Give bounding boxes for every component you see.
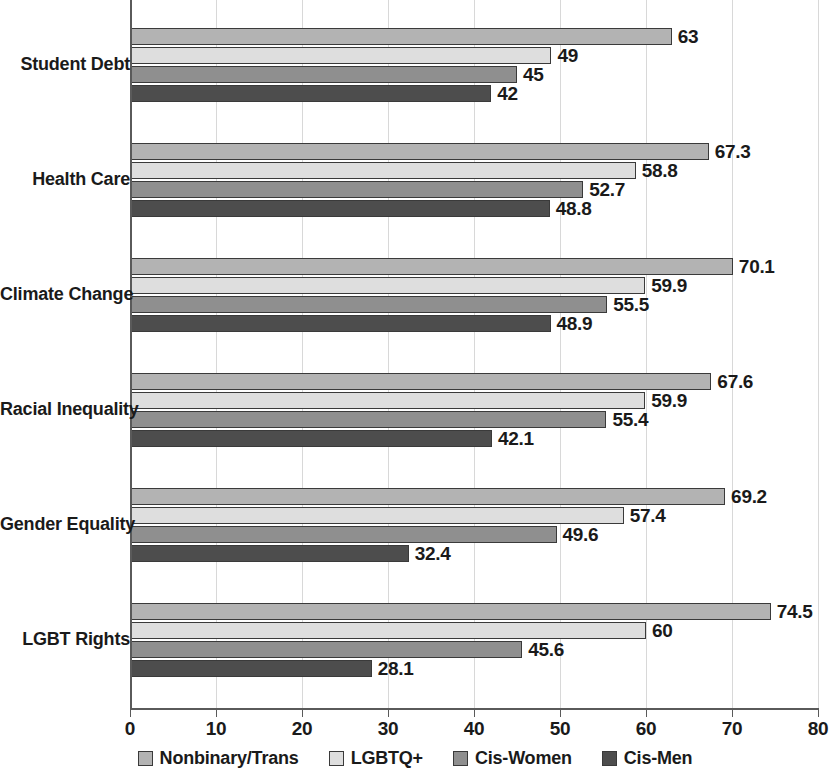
bar[interactable]	[130, 28, 672, 45]
bar-value-label: 28.1	[378, 657, 414, 679]
bar[interactable]	[130, 85, 491, 102]
bar-value-label: 70.1	[739, 255, 775, 277]
bar-value-label: 49	[557, 44, 578, 66]
bar-row: 42.1	[130, 430, 818, 447]
bar-row: 55.5	[130, 296, 818, 313]
bar-row: 42	[130, 85, 818, 102]
gridline	[732, 0, 733, 708]
bar-row: 67.3	[130, 143, 818, 160]
bar[interactable]	[130, 277, 645, 294]
bar-row: 32.4	[130, 545, 818, 562]
bar-value-label: 63	[678, 25, 699, 47]
bar-value-label: 32.4	[415, 542, 451, 564]
bar[interactable]	[130, 603, 771, 620]
x-tick-label: 20	[292, 718, 313, 740]
bar[interactable]	[130, 66, 517, 83]
bar-value-label: 60	[652, 619, 673, 641]
x-tick-label: 50	[550, 718, 571, 740]
legend-item[interactable]: Cis-Women	[453, 748, 572, 769]
bar[interactable]	[130, 545, 409, 562]
x-tick-mark	[216, 709, 217, 717]
bar[interactable]	[130, 143, 709, 160]
legend-swatch-icon	[138, 751, 153, 766]
bar-row: 48.9	[130, 315, 818, 332]
bar[interactable]	[130, 430, 492, 447]
bar[interactable]	[130, 296, 607, 313]
bar-group: 69.257.449.632.4	[130, 488, 818, 564]
bar[interactable]	[130, 373, 711, 390]
x-tick-mark	[560, 709, 561, 717]
y-axis-line	[130, 0, 132, 709]
bar-group: 67.659.955.442.1	[130, 373, 818, 449]
gridline	[818, 0, 819, 708]
bar[interactable]	[130, 392, 645, 409]
bar-value-label: 49.6	[563, 523, 599, 545]
bar-row: 28.1	[130, 660, 818, 677]
bar-value-label: 69.2	[731, 485, 767, 507]
bar-row: 60	[130, 622, 818, 639]
category-label: Health Care	[0, 169, 130, 190]
x-tick-mark	[474, 709, 475, 717]
bar-row: 59.9	[130, 392, 818, 409]
legend-item[interactable]: LGBTQ+	[329, 748, 423, 769]
x-tick-mark	[646, 709, 647, 717]
category-label: Gender Equality	[0, 514, 130, 535]
x-tick-mark	[818, 709, 819, 717]
x-tick-label: 10	[206, 718, 227, 740]
bar-value-label: 67.3	[715, 140, 751, 162]
category-label: Climate Change	[0, 284, 130, 305]
bar[interactable]	[130, 200, 550, 217]
bar-value-label: 42	[497, 82, 518, 104]
bar-row: 70.1	[130, 258, 818, 275]
x-tick-label: 0	[125, 718, 135, 740]
bar-value-label: 58.8	[642, 159, 678, 181]
bar-value-label: 74.5	[777, 600, 813, 622]
category-label: Racial Inequality	[0, 399, 130, 420]
bar-row: 67.6	[130, 373, 818, 390]
bar-value-label: 45	[523, 63, 544, 85]
legend-label: LGBTQ+	[351, 748, 423, 769]
bar-row: 45.6	[130, 641, 818, 658]
plot-area: 6349454267.358.852.748.870.159.955.548.9…	[130, 0, 818, 708]
bar-row: 69.2	[130, 488, 818, 505]
bar[interactable]	[130, 315, 551, 332]
bar-value-label: 45.6	[528, 638, 564, 660]
legend-swatch-icon	[329, 751, 344, 766]
bar[interactable]	[130, 162, 636, 179]
bar[interactable]	[130, 488, 725, 505]
bar[interactable]	[130, 641, 522, 658]
bar[interactable]	[130, 258, 733, 275]
chart-legend: Nonbinary/TransLGBTQ+Cis-WomenCis-Men	[0, 748, 830, 769]
x-tick-label: 30	[378, 718, 399, 740]
gridline	[388, 0, 389, 708]
bar-value-label: 55.4	[612, 408, 648, 430]
x-tick-label: 70	[722, 718, 743, 740]
gridline	[474, 0, 475, 708]
bar[interactable]	[130, 660, 372, 677]
legend-swatch-icon	[453, 751, 468, 766]
legend-item[interactable]: Nonbinary/Trans	[138, 748, 299, 769]
bar-row: 63	[130, 28, 818, 45]
bar-group: 67.358.852.748.8	[130, 143, 818, 219]
bar[interactable]	[130, 507, 624, 524]
bar-value-label: 48.8	[556, 197, 592, 219]
x-tick-mark	[130, 709, 131, 717]
gridline	[646, 0, 647, 708]
bar[interactable]	[130, 526, 557, 543]
legend-item[interactable]: Cis-Men	[602, 748, 693, 769]
bar[interactable]	[130, 411, 606, 428]
bar[interactable]	[130, 47, 551, 64]
bar-group: 63494542	[130, 28, 818, 104]
bar-group: 74.56045.628.1	[130, 603, 818, 679]
bar-row: 45	[130, 66, 818, 83]
x-tick-mark	[388, 709, 389, 717]
bar[interactable]	[130, 181, 583, 198]
x-tick-label: 60	[636, 718, 657, 740]
bar-row: 58.8	[130, 162, 818, 179]
bar[interactable]	[130, 622, 646, 639]
bar-value-label: 52.7	[589, 178, 625, 200]
gridline	[560, 0, 561, 708]
bar-value-label: 55.5	[613, 293, 649, 315]
bar-value-label: 48.9	[557, 312, 593, 334]
bar-row: 49.6	[130, 526, 818, 543]
